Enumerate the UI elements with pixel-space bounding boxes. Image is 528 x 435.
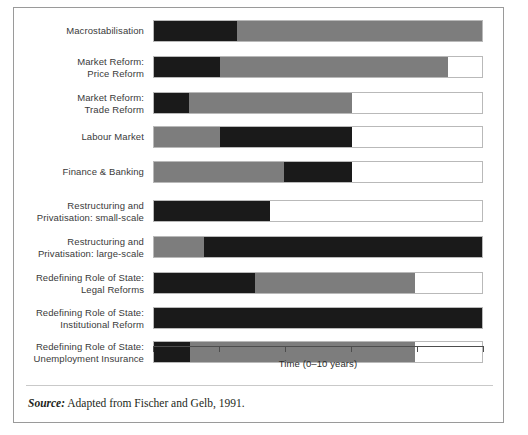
chart-row: Finance & Banking — [14, 161, 503, 183]
bar-segment-phase2 — [220, 57, 448, 77]
bar-segment-phase1 — [154, 21, 237, 41]
chart-row: Redefining Role of State: Institutional … — [14, 307, 503, 329]
bar-segment-phase2 — [154, 237, 204, 257]
category-label: Restructuring and Privatisation: large-s… — [14, 236, 144, 259]
chart-row: Restructuring and Privatisation: small-s… — [14, 200, 503, 222]
x-axis-title: Time (0–10 years) — [153, 358, 483, 369]
bar-track — [153, 20, 483, 42]
category-label: Macrostabilisation — [14, 25, 144, 37]
bar-track — [153, 307, 483, 329]
bar-segment-phase1 — [204, 237, 484, 257]
category-label: Restructuring and Privatisation: small-s… — [14, 200, 144, 223]
bar-segment-phase2 — [154, 162, 284, 182]
bar-track — [153, 200, 483, 222]
category-label: Redefining Role of State: Institutional … — [14, 307, 144, 330]
bar-segment-phase1 — [154, 201, 270, 221]
bar-segment-phase2 — [189, 93, 352, 113]
axis-tick — [153, 346, 154, 352]
x-axis — [153, 346, 483, 352]
bar-segment-phase1 — [154, 93, 189, 113]
chart-row: Macrostabilisation — [14, 20, 503, 42]
category-label: Market Reform: Price Reform — [14, 56, 144, 79]
category-label: Redefining Role of State: Unemployment I… — [14, 341, 144, 364]
chart-row: Labour Market — [14, 126, 503, 148]
bar-track — [153, 126, 483, 148]
bar-segment-phase1 — [284, 162, 352, 182]
bar-segment-phase1 — [220, 127, 352, 147]
bar-segment-phase2 — [255, 273, 415, 293]
source-citation: Adapted from Fischer and Gelb, 1991. — [65, 397, 245, 409]
bar-segment-phase2 — [154, 127, 220, 147]
category-label: Finance & Banking — [14, 166, 144, 178]
bar-track — [153, 236, 483, 258]
axis-tick — [285, 346, 286, 352]
chart-row: Redefining Role of State: Legal Reforms — [14, 272, 503, 294]
bar-segment-phase1 — [154, 308, 483, 328]
bar-track — [153, 92, 483, 114]
chart-row: Market Reform: Price Reform — [14, 56, 503, 78]
source-note: Source: Adapted from Fischer and Gelb, 1… — [28, 397, 245, 409]
category-label: Labour Market — [14, 131, 144, 143]
x-axis-line — [153, 346, 483, 347]
bar-track — [153, 272, 483, 294]
bar-segment-phase1 — [154, 273, 255, 293]
bar-track — [153, 161, 483, 183]
source-divider — [26, 385, 493, 386]
chart-row: Restructuring and Privatisation: large-s… — [14, 236, 503, 258]
axis-tick — [417, 346, 418, 352]
category-label: Redefining Role of State: Legal Reforms — [14, 272, 144, 295]
bar-chart: MacrostabilisationMarket Reform: Price R… — [14, 8, 503, 358]
figure-frame: MacrostabilisationMarket Reform: Price R… — [13, 7, 504, 423]
category-label: Market Reform: Trade Reform — [14, 92, 144, 115]
source-label: Source: — [28, 397, 65, 409]
axis-tick — [219, 346, 220, 352]
bar-segment-phase2 — [237, 21, 484, 41]
axis-tick — [483, 346, 484, 352]
axis-tick — [351, 346, 352, 352]
chart-row: Market Reform: Trade Reform — [14, 92, 503, 114]
bar-segment-phase1 — [154, 57, 220, 77]
bar-track — [153, 56, 483, 78]
